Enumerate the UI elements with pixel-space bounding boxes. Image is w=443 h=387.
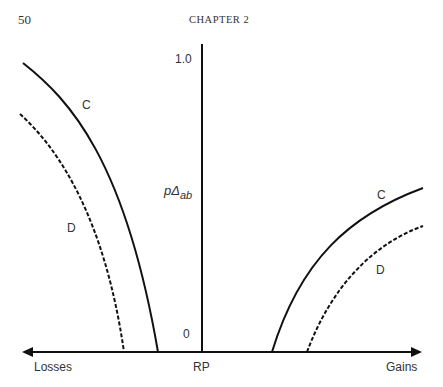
- figure: 1.0 0 pΔab Losses RP Gains C D C D: [0, 0, 443, 387]
- curve-label-c-gains: C: [377, 188, 386, 202]
- curve-d-gains: [307, 226, 423, 352]
- arrow-right-icon: [411, 347, 422, 357]
- x-label-gains: Gains: [386, 360, 417, 374]
- y-axis-label: pΔab: [163, 183, 192, 201]
- curve-label-d-losses: D: [67, 221, 76, 235]
- x-label-rp: RP: [193, 360, 210, 374]
- arrow-left-icon: [22, 347, 33, 357]
- y-tick-bottom: 0: [183, 327, 190, 341]
- x-label-losses: Losses: [34, 360, 72, 374]
- curve-label-c-losses: C: [82, 98, 91, 112]
- curve-c-gains: [272, 188, 423, 352]
- y-tick-top: 1.0: [175, 52, 192, 66]
- curve-label-d-gains: D: [376, 263, 385, 277]
